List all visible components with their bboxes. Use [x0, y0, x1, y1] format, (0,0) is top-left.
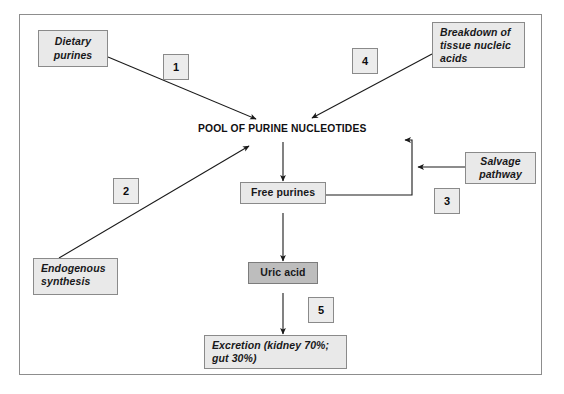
step-label-5: 5	[308, 297, 334, 323]
step-label-2: 2	[113, 178, 139, 204]
diagram-canvas: Dietary purines Breakdown of tissue nucl…	[0, 0, 564, 394]
node-free-purines[interactable]: Free purines	[240, 182, 326, 204]
step-label-3: 3	[434, 188, 460, 214]
node-uric-acid[interactable]: Uric acid	[248, 262, 318, 284]
node-salvage-pathway[interactable]: Salvage pathway	[465, 152, 536, 184]
step-label-1: 1	[163, 54, 189, 80]
node-endogenous-synthesis[interactable]: Endogenous synthesis	[33, 258, 118, 295]
node-dietary-purines[interactable]: Dietary purines	[38, 30, 108, 67]
node-breakdown-tissue-nucleic-acids[interactable]: Breakdown of tissue nucleic acids	[432, 22, 525, 68]
pool-of-purine-nucleotides-label: POOL OF PURINE NUCLEOTIDES	[198, 123, 366, 134]
step-label-4: 4	[352, 48, 378, 74]
node-excretion[interactable]: Excretion (kidney 70%; gut 30%)	[204, 335, 347, 369]
